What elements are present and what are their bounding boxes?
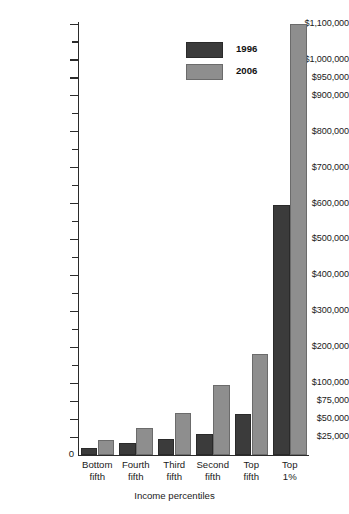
y-axis-tick: [70, 167, 78, 168]
bar-top-1--2006: [290, 24, 307, 455]
bar-second-fifth-1996: [196, 434, 213, 455]
y-axis-tick: [70, 59, 78, 60]
bar-fourth-fifth-1996: [119, 443, 136, 455]
bar-bottom-fifth-1996: [81, 448, 98, 455]
x-axis-label-line2: 1%: [265, 471, 316, 483]
y-axis-tick: [70, 347, 78, 348]
bar-top-fifth-2006: [252, 354, 269, 455]
y-axis-tick: [70, 24, 78, 25]
x-axis-label: Top1%: [265, 459, 316, 482]
y-axis-tick: [70, 239, 78, 240]
x-axis-line: [78, 455, 309, 456]
legend-item-2006: 2006: [186, 62, 306, 84]
legend-label-1996: 1996: [236, 44, 257, 54]
chart-legend: 1996 2006: [186, 40, 306, 84]
y-axis-tick: [70, 95, 78, 96]
bar-top-fifth-1996: [235, 414, 252, 455]
y-axis-tick: [70, 383, 78, 384]
legend-swatch-2006: [186, 64, 223, 80]
bar-third-fifth-1996: [158, 439, 175, 455]
y-axis-tick: [70, 437, 78, 438]
y-axis-tick: [70, 419, 78, 420]
bar-top-1--1996: [273, 205, 290, 455]
x-axis-label-line1: Top: [265, 459, 316, 471]
y-axis-tick: [70, 275, 78, 276]
y-axis-tick: [70, 203, 78, 204]
legend-swatch-1996: [186, 42, 223, 58]
y-axis-tick: [70, 131, 78, 132]
bar-fourth-fifth-2006: [136, 428, 153, 455]
y-axis-tick: [70, 401, 78, 402]
bar-second-fifth-2006: [213, 385, 230, 455]
bar-chart: $25,000$50,000$75,000$100,000$200,000$30…: [0, 0, 349, 514]
y-axis-tick: [70, 311, 78, 312]
y-axis-tick: [70, 77, 78, 78]
legend-item-1996: 1996: [186, 40, 306, 62]
bar-bottom-fifth-2006: [98, 440, 115, 455]
bar-third-fifth-2006: [175, 413, 192, 455]
legend-label-2006: 2006: [236, 66, 257, 76]
x-axis-title: Income percentiles: [0, 490, 349, 501]
y-axis-zero-label: 0: [56, 449, 74, 459]
